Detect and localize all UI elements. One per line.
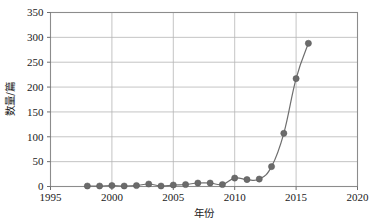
y-tick-label: 100 [27,131,44,143]
x-tick-label: 2005 [162,191,185,203]
x-tick-label: 2000 [101,191,124,203]
data-point-marker [121,183,127,189]
data-point-marker [146,181,152,187]
data-point-marker [268,164,274,170]
data-point-marker [133,182,139,188]
data-point-marker [256,176,262,182]
data-point-marker [293,76,299,82]
data-point-marker [232,175,238,181]
y-axis-tick-labels: 050100150200250300350 [27,6,44,192]
data-point-marker [281,130,287,136]
data-point-marker [182,181,188,187]
data-point-marker [158,183,164,189]
x-axis-tick-labels: 199520002005201020152020 [40,191,370,203]
y-tick-label: 250 [27,56,44,68]
x-tick-label: 2020 [347,191,370,203]
data-point-marker [97,183,103,189]
data-point-marker [219,181,225,187]
y-tick-label: 300 [27,31,44,43]
plot-border [51,13,358,187]
plot-frame [51,13,358,187]
y-tick-label: 150 [27,106,44,118]
chart-container: 050100150200250300350 199520002005201020… [0,0,386,223]
data-point-marker [84,183,90,189]
y-tick-label: 50 [33,155,45,167]
x-tick-label: 2015 [285,191,308,203]
data-point-marker [195,180,201,186]
y-tick-label: 350 [27,6,44,18]
data-point-marker [207,180,213,186]
grid-lines [51,13,358,187]
y-axis-title: 数量/篇 [4,82,16,116]
data-point-marker [170,182,176,188]
line-chart: 050100150200250300350 199520002005201020… [0,0,386,223]
data-point-marker [244,176,250,182]
data-point-marker [109,182,115,188]
x-tick-label: 2010 [224,191,247,203]
data-point-marker [305,40,311,46]
y-tick-label: 200 [27,81,44,93]
x-axis-title: 年份 [194,207,215,219]
x-tick-label: 1995 [40,191,63,203]
series-line [87,43,308,186]
axis-ticks [47,13,358,191]
